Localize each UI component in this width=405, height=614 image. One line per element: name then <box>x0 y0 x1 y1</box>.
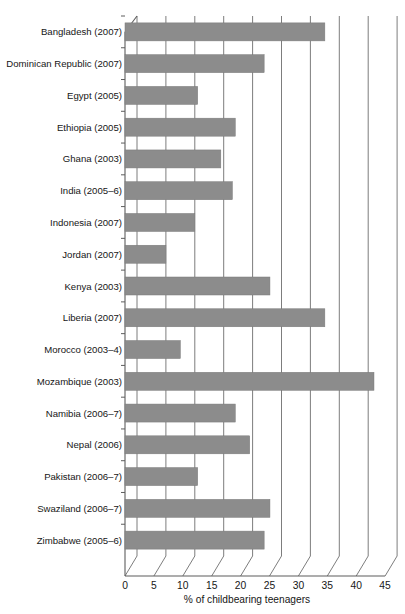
gridline-30 <box>298 16 310 576</box>
category-label: Liberia (2007) <box>63 312 122 323</box>
bar <box>125 213 195 231</box>
gridline-20 <box>241 16 253 576</box>
gridline-40 <box>356 16 368 576</box>
gridline-45 <box>385 16 397 576</box>
bar <box>125 404 235 422</box>
bar <box>125 55 264 73</box>
category-label: Swaziland (2006–7) <box>37 503 122 514</box>
bar <box>125 499 270 517</box>
bar-chart-container: Bangladesh (2007)Dominican Republic (200… <box>0 0 405 614</box>
x-tick-label: 25 <box>264 580 276 591</box>
bar <box>125 245 166 263</box>
bar <box>125 309 325 327</box>
x-tick-label: 15 <box>206 580 218 591</box>
category-label: Ghana (2003) <box>63 153 122 164</box>
x-tick-label: 5 <box>151 580 157 591</box>
bar <box>125 23 325 41</box>
x-tick-label: 0 <box>122 580 128 591</box>
category-label: Indonesia (2007) <box>50 217 122 228</box>
bar <box>125 468 198 486</box>
chart-canvas: Bangladesh (2007)Dominican Republic (200… <box>0 0 405 614</box>
category-label: Egypt (2005) <box>67 90 122 101</box>
bar <box>125 531 264 549</box>
category-label: Kenya (2003) <box>64 281 122 292</box>
bar <box>125 372 374 390</box>
category-label: Nepal (2006) <box>67 439 122 450</box>
gridline-35 <box>327 16 339 576</box>
x-tick-label: 10 <box>177 580 189 591</box>
bar <box>125 118 235 136</box>
x-tick-label: 30 <box>293 580 305 591</box>
category-label: Jordan (2007) <box>62 249 122 260</box>
gridline-25 <box>270 16 282 576</box>
category-label: Dominican Republic (2007) <box>6 58 122 69</box>
category-label: Mozambique (2003) <box>37 376 122 387</box>
x-tick-label: 20 <box>235 580 247 591</box>
tick-labels-group: 051015202530354045 <box>122 580 391 591</box>
bar <box>125 277 270 295</box>
bars-group <box>125 23 374 549</box>
category-label: India (2005–6) <box>60 185 122 196</box>
bar <box>125 182 232 200</box>
bar <box>125 436 250 454</box>
category-label: Ethiopia (2005) <box>57 122 122 133</box>
x-tick-label: 45 <box>379 580 391 591</box>
x-tick-label: 40 <box>350 580 362 591</box>
category-label: Bangladesh (2007) <box>41 26 122 37</box>
category-label: Morocco (2003–4) <box>44 344 122 355</box>
x-axis-title: % of childbearing teenagers <box>184 594 310 605</box>
gridline-15 <box>212 16 224 576</box>
category-label: Pakistan (2006–7) <box>44 471 122 482</box>
bar <box>125 150 221 168</box>
category-label: Zimbabwe (2005–6) <box>37 535 122 546</box>
x-tick-label: 35 <box>322 580 334 591</box>
category-labels-group: Bangladesh (2007)Dominican Republic (200… <box>6 26 122 545</box>
category-label: Namibia (2006–7) <box>46 408 122 419</box>
bar <box>125 86 198 104</box>
bar <box>125 341 180 359</box>
